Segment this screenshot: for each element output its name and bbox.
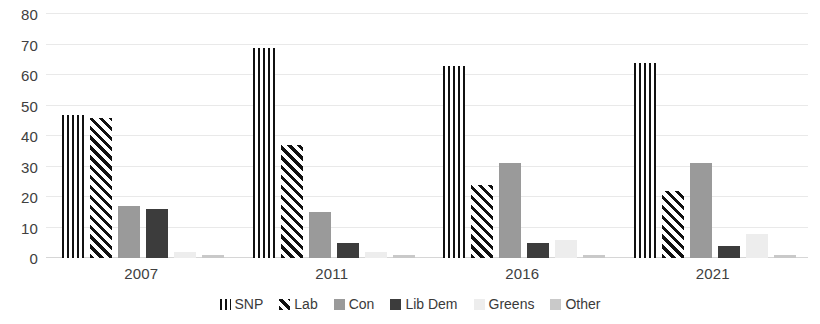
bar-lab-2021[interactable] <box>662 191 684 258</box>
bar-lib-dem-2011[interactable] <box>337 243 359 258</box>
legend-label: Lib Dem <box>405 296 457 312</box>
legend-label: SNP <box>235 296 264 312</box>
bar-group-2007 <box>46 14 237 258</box>
bar-group-2011 <box>237 14 428 258</box>
bar-snp-2021[interactable] <box>634 63 656 258</box>
bar-other-2011[interactable] <box>393 255 415 258</box>
bar-other-2021[interactable] <box>774 255 796 258</box>
legend-swatch-other-icon <box>550 299 561 310</box>
legend-item-greens[interactable]: Greens <box>474 296 535 312</box>
y-tick-label: 10 <box>21 220 38 235</box>
legend-label: Con <box>349 296 375 312</box>
y-tick-label: 0 <box>29 251 38 266</box>
bar-lab-2007[interactable] <box>90 118 112 258</box>
legend-label: Lab <box>294 296 317 312</box>
legend-item-other[interactable]: Other <box>550 296 600 312</box>
bar-other-2007[interactable] <box>202 255 224 258</box>
x-tick-label-2016: 2016 <box>427 262 618 286</box>
bar-con-2007[interactable] <box>118 206 140 258</box>
plot-area <box>46 14 808 258</box>
x-tick-label-2021: 2021 <box>618 262 809 286</box>
legend: SNPLabConLib DemGreensOther <box>0 296 820 312</box>
legend-item-con[interactable]: Con <box>334 296 375 312</box>
legend-swatch-lib-dem-icon <box>390 299 401 310</box>
legend-label: Other <box>565 296 600 312</box>
bar-snp-2007[interactable] <box>62 115 84 258</box>
bar-lib-dem-2016[interactable] <box>527 243 549 258</box>
x-tick-label-2011: 2011 <box>237 262 428 286</box>
bar-greens-2007[interactable] <box>174 252 196 258</box>
bar-lib-dem-2021[interactable] <box>718 246 740 258</box>
legend-swatch-snp-icon <box>220 299 231 310</box>
bar-group-2016 <box>427 14 618 258</box>
bar-lib-dem-2007[interactable] <box>146 209 168 258</box>
y-tick-label: 30 <box>21 159 38 174</box>
legend-label: Greens <box>489 296 535 312</box>
legend-swatch-greens-icon <box>474 299 485 310</box>
y-tick-label: 70 <box>21 37 38 52</box>
x-tick-label-2007: 2007 <box>46 262 237 286</box>
x-axis: 2007201120162021 <box>46 262 808 286</box>
legend-item-lab[interactable]: Lab <box>279 296 317 312</box>
bar-con-2021[interactable] <box>690 163 712 258</box>
legend-item-lib-dem[interactable]: Lib Dem <box>390 296 457 312</box>
bar-con-2011[interactable] <box>309 212 331 258</box>
bar-snp-2016[interactable] <box>443 66 465 258</box>
bar-greens-2021[interactable] <box>746 234 768 258</box>
bar-other-2016[interactable] <box>583 255 605 258</box>
bar-greens-2016[interactable] <box>555 240 577 258</box>
bar-lab-2011[interactable] <box>281 145 303 258</box>
bar-con-2016[interactable] <box>499 163 521 258</box>
bar-group-2021 <box>618 14 809 258</box>
y-axis: 01020304050607080 <box>0 0 46 258</box>
y-tick-label: 80 <box>21 7 38 22</box>
bar-greens-2011[interactable] <box>365 252 387 258</box>
legend-swatch-lab-icon <box>279 299 290 310</box>
bar-groups <box>46 14 808 258</box>
y-tick-label: 40 <box>21 129 38 144</box>
bar-chart: 01020304050607080 2007201120162021 SNPLa… <box>0 0 820 324</box>
y-tick-label: 50 <box>21 98 38 113</box>
bar-snp-2011[interactable] <box>253 48 275 258</box>
bar-lab-2016[interactable] <box>471 185 493 258</box>
y-tick-label: 60 <box>21 68 38 83</box>
y-tick-label: 20 <box>21 190 38 205</box>
legend-swatch-con-icon <box>334 299 345 310</box>
legend-item-snp[interactable]: SNP <box>220 296 264 312</box>
